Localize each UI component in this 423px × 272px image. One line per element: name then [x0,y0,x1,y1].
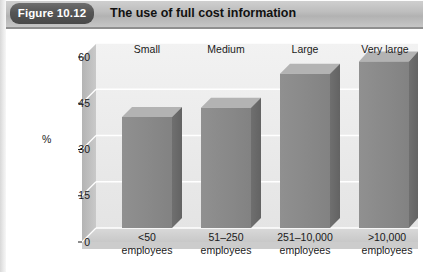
x-axis-label-3: >10,000 employees [342,231,423,256]
x-axis-label-0: <50 employees [102,231,192,256]
x-axis-label-3-line2: employees [342,244,423,257]
x-axis-label-2: 251–10,000 employees [255,231,355,256]
figure-root: Figure 10.12 The use of full cost inform… [0,0,423,272]
y-tick-30: 30 [62,144,90,154]
y-tick-45: 45 [62,98,90,108]
x-axis-label-0-line2: employees [102,244,192,257]
bar-very-large [359,52,418,229]
y-tick-0: 0 [62,237,90,247]
category-header-large: Large [270,43,340,55]
figure-number-badge: Figure 10.12 [10,3,94,24]
bar-medium [201,98,261,228]
category-header-very-large: Very large [348,43,422,55]
x-axis-label-0-line1: <50 [102,231,192,244]
y-tick-15: 15 [62,190,90,200]
x-axis-label-3-line1: >10,000 [342,231,423,244]
chart-container: 60 45 30 15 0 % Small Medium Large Very … [6,29,423,272]
x-axis-label-2-line2: employees [255,244,355,257]
category-header-medium: Medium [191,43,261,55]
category-header-small: Small [112,43,182,55]
bar-large [280,64,340,228]
y-axis-labels: 60 45 30 15 0 [58,29,90,272]
chart-plot: 60 45 30 15 0 % Small Medium Large Very … [6,29,423,272]
figure-title: The use of full cost information [110,3,296,24]
x-axis-label-2-line1: 251–10,000 [255,231,355,244]
y-axis-unit-label: % [42,133,51,145]
y-tick-60: 60 [62,52,90,62]
bar-small [122,107,182,228]
